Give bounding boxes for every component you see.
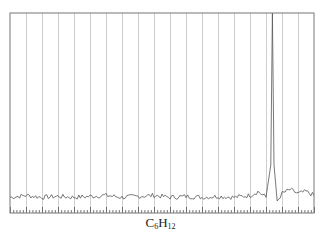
spectrum-chart	[0, 0, 321, 235]
formula-h-subscript: 12	[168, 222, 176, 231]
formula-c: C	[145, 215, 154, 230]
x-axis-ticks	[11, 207, 315, 213]
formula-h: H	[158, 215, 167, 230]
spectrum-line	[10, 13, 314, 201]
vertical-gridlines	[27, 13, 299, 213]
compound-formula-caption: C6H12	[0, 215, 321, 231]
